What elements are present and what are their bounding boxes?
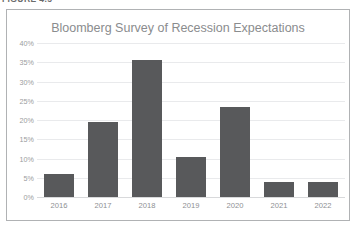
bar xyxy=(308,182,339,197)
chart-title: Bloomberg Survey of Recession Expectatio… xyxy=(7,21,349,35)
gridline xyxy=(37,197,345,198)
y-axis-tick-label: 25% xyxy=(8,96,34,105)
x-axis-tick-label: 2016 xyxy=(37,201,81,210)
y-axis: 40%35%30%25%20%15%10%5%0% xyxy=(7,43,34,197)
y-axis-tick-label: 30% xyxy=(8,77,34,86)
bar xyxy=(176,157,207,197)
y-axis-tick-label: 5% xyxy=(8,173,34,182)
y-axis-tick-label: 35% xyxy=(8,58,34,67)
x-axis-tick-label: 2019 xyxy=(169,201,213,210)
plot-area xyxy=(37,43,345,197)
x-axis: 2016201720182019202020212022 xyxy=(37,199,345,215)
x-axis-tick-label: 2020 xyxy=(213,201,257,210)
x-axis-tick-label: 2022 xyxy=(301,201,345,210)
y-axis-tick-label: 20% xyxy=(8,116,34,125)
bar xyxy=(44,174,75,197)
bar xyxy=(264,182,295,197)
bar-series xyxy=(37,43,345,197)
y-axis-tick-label: 10% xyxy=(8,154,34,163)
y-axis-tick-label: 15% xyxy=(8,135,34,144)
bar xyxy=(220,107,251,197)
x-axis-tick-label: 2021 xyxy=(257,201,301,210)
x-axis-tick-label: 2018 xyxy=(125,201,169,210)
y-axis-tick-label: 40% xyxy=(8,39,34,48)
figure-caption: FIGURE 4.5 xyxy=(2,0,52,4)
bar xyxy=(132,60,163,197)
y-axis-tick-label: 0% xyxy=(8,193,34,202)
bar xyxy=(88,122,119,197)
figure-frame: Bloomberg Survey of Recession Expectatio… xyxy=(6,9,350,221)
x-axis-tick-label: 2017 xyxy=(81,201,125,210)
